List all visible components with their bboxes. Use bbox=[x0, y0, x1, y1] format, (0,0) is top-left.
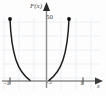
x-tick-label-right: 1 bbox=[80, 80, 84, 87]
endpoint-marker-right bbox=[67, 17, 71, 21]
function-graph-figure: F(x) 50 -1 -5 1 x bbox=[0, 0, 106, 96]
y-axis-label: F(x) bbox=[30, 3, 42, 10]
graph-canvas bbox=[0, 0, 106, 96]
x-axis bbox=[2, 78, 103, 85]
x-tick-label-middle: -5 bbox=[46, 79, 52, 86]
y-value-label-50: 50 bbox=[46, 14, 53, 21]
x-tick-label-left: -1 bbox=[4, 80, 10, 87]
y-axis-arrowhead bbox=[43, 2, 50, 11]
x-axis-label: x bbox=[97, 83, 100, 89]
endpoint-marker-left bbox=[8, 17, 12, 21]
